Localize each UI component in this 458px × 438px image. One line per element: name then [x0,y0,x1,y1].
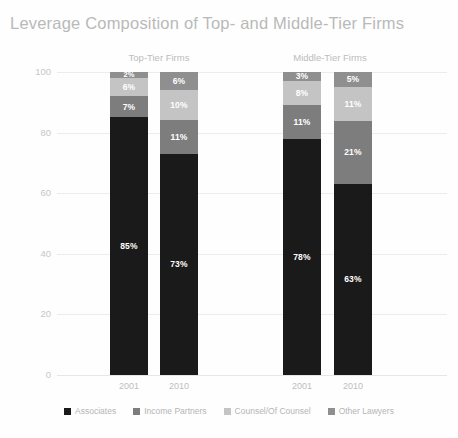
y-axis-tick-label: 20 [23,308,51,319]
bar-segment-value-label: 85% [120,242,138,251]
bar-segment-value-label: 10% [170,101,188,110]
bar-segment-value-label: 11% [344,100,361,109]
bar-segment-value-label: 6% [173,77,186,86]
legend-swatch-icon [64,408,71,415]
legend-swatch-icon [224,408,231,415]
legend-label: Associates [75,406,116,416]
bar-segment-value-label: 8% [296,89,309,98]
bar-segment-value-label: 73% [170,260,188,269]
y-axis-tick-label: 100 [23,66,51,77]
bar-segment[interactable]: 11% [334,87,372,120]
legend-item[interactable]: Associates [64,406,116,416]
bar-segment-value-label: 5% [347,75,360,84]
bar-stack[interactable]: 78%11%8%3% [283,72,321,375]
bar-segment-value-label: 78% [293,253,311,262]
y-axis-tick-label: 0 [23,369,51,380]
y-axis-tick-label: 60 [23,187,51,198]
bar-segment[interactable]: 3% [283,72,321,81]
legend-label: Counsel/Of Counsel [235,406,311,416]
chart-title: Leverage Composition of Top- and Middle-… [10,14,404,33]
bar-segment[interactable]: 11% [160,120,198,153]
legend-swatch-icon [133,408,140,415]
legend-label: Other Lawyers [339,406,394,416]
bar-segment[interactable]: 10% [160,90,198,120]
chart-container: Leverage Composition of Top- and Middle-… [0,0,458,438]
bar-segment[interactable]: 78% [283,139,321,375]
legend-item[interactable]: Other Lawyers [328,406,394,416]
bar-segment-value-label: 3% [296,72,309,81]
bar-segment[interactable]: 6% [110,78,148,96]
bar-segment-value-label: 2% [123,71,134,79]
x-axis-tick-label: 2010 [323,381,383,391]
bar-segment-value-label: 21% [344,148,362,157]
bar-segment-value-label: 63% [344,275,362,284]
bar-segment[interactable]: 63% [334,184,372,375]
bar-segment-value-label: 6% [123,83,136,92]
y-axis-tick-label: 80 [23,127,51,138]
bar-segment[interactable]: 11% [283,105,321,138]
plot-area: 85%7%6%2%73%11%10%6%78%11%8%3%63%21%11%5… [57,72,447,375]
bar-segment[interactable]: 8% [283,81,321,105]
bar-stack[interactable]: 63%21%11%5% [334,72,372,375]
x-axis-tick-label: 2010 [149,381,209,391]
legend-item[interactable]: Income Partners [133,406,206,416]
bar-segment-value-label: 11% [293,118,310,127]
bar-segment[interactable]: 73% [160,154,198,375]
bar-segment[interactable]: 7% [110,96,148,117]
gridline [57,375,447,376]
bar-segment[interactable]: 2% [110,72,148,78]
bar-segment-value-label: 11% [170,133,187,142]
bar-segment[interactable]: 6% [160,72,198,90]
y-axis-tick-label: 40 [23,248,51,259]
legend-label: Income Partners [144,406,206,416]
bar-segment[interactable]: 85% [110,117,148,375]
bar-segment-value-label: 7% [123,103,136,112]
bar-stack[interactable]: 85%7%6%2% [110,72,148,375]
legend-item[interactable]: Counsel/Of Counsel [224,406,311,416]
bar-segment[interactable]: 21% [334,121,372,185]
group-label-top-tier: Top-Tier Firms [104,52,214,63]
group-label-middle-tier: Middle-Tier Firms [275,52,385,63]
legend-swatch-icon [328,408,335,415]
bar-stack[interactable]: 73%11%10%6% [160,72,198,375]
bar-segment[interactable]: 5% [334,72,372,87]
chart-legend: AssociatesIncome PartnersCounsel/Of Coun… [0,406,458,416]
